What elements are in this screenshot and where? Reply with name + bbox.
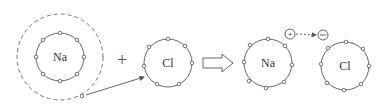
cl-ion-after: Cl <box>319 40 371 92</box>
na-label: Na <box>53 50 68 64</box>
positive-charge-icon: + <box>285 29 295 39</box>
na-atom-before: Na <box>17 14 103 100</box>
reaction-arrow-icon <box>203 54 233 72</box>
na-ion-after: Na <box>242 37 294 90</box>
na-ion-label: Na <box>261 56 276 70</box>
valence-electron <box>80 94 84 98</box>
cl-label: Cl <box>162 56 174 70</box>
cl-atom-before: Cl <box>142 37 194 87</box>
negative-charge-icon <box>318 30 328 40</box>
cl-ion-label: Cl <box>339 59 351 73</box>
electron-transfer-arrow <box>86 77 144 95</box>
svg-text:+: + <box>288 30 293 39</box>
attraction-arrow <box>296 34 316 35</box>
plus-sign: + <box>117 50 127 70</box>
ionic-bond-diagram: Na + Cl Na + <box>0 0 389 104</box>
